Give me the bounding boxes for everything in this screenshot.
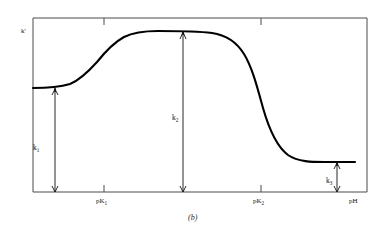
x-tick-label-pk1: pK1: [96, 197, 108, 206]
x-axis-label: pH: [349, 197, 358, 205]
y-axis-label: k': [21, 27, 26, 35]
k2-label: k2: [172, 113, 179, 123]
k2-annotation: k2: [172, 31, 186, 192]
k3-label: k3: [326, 176, 333, 186]
rate-curve: [33, 31, 355, 162]
k1-label: k1: [33, 143, 40, 153]
x-tick-label-pk2: pK2: [253, 197, 265, 206]
k3-annotation: k3: [326, 162, 340, 192]
figure-container: k1 k2 k3 k' pK1 pK2 pH (b): [0, 0, 390, 231]
figure-caption: (b): [188, 213, 198, 222]
k1-annotation: k1: [33, 88, 58, 192]
ph-rate-profile-chart: k1 k2 k3 k' pK1 pK2 pH (b): [0, 0, 390, 231]
